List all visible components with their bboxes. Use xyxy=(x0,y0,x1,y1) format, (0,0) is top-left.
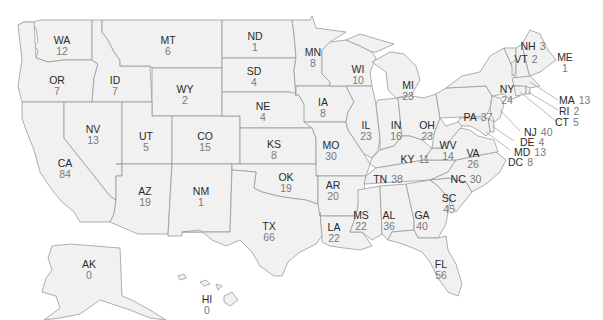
label-ar: AR20 xyxy=(326,180,341,202)
label-vt: VT2 xyxy=(514,54,537,65)
state-ak[interactable] xyxy=(42,244,166,320)
leader-ct xyxy=(520,92,556,121)
label-or: OR7 xyxy=(49,75,65,97)
label-ny: NY24 xyxy=(500,84,515,106)
label-tn: TN38 xyxy=(373,174,403,185)
label-il: IL23 xyxy=(360,120,372,142)
label-wi: WI10 xyxy=(352,64,365,86)
label-tx: TX66 xyxy=(262,221,275,243)
label-co: CO15 xyxy=(197,131,213,153)
label-nd: ND1 xyxy=(247,31,262,53)
label-in: IN16 xyxy=(390,120,402,142)
label-ne: NE4 xyxy=(256,101,271,123)
label-pa: PA37 xyxy=(464,112,493,123)
state-ct[interactable] xyxy=(514,86,526,96)
label-al: AL36 xyxy=(383,210,396,232)
label-ok: OK19 xyxy=(278,172,293,194)
label-oh: OH23 xyxy=(419,120,435,142)
label-wv: WV14 xyxy=(440,140,457,162)
label-ct: CT5 xyxy=(555,117,579,128)
label-mt: MT6 xyxy=(160,35,175,57)
label-id: ID7 xyxy=(110,75,121,97)
label-nh: NH3 xyxy=(520,41,545,52)
label-ms: MS22 xyxy=(353,210,369,232)
leader-nj xyxy=(500,110,520,131)
label-me: ME1 xyxy=(557,52,573,74)
label-nc: NC30 xyxy=(451,174,482,185)
label-ut: UT5 xyxy=(139,131,153,153)
label-mn: MN8 xyxy=(305,47,321,69)
label-ia: IA8 xyxy=(318,97,328,119)
label-ky: KY11 xyxy=(401,154,430,165)
label-sd: SD4 xyxy=(247,66,262,88)
label-az: AZ19 xyxy=(138,186,151,208)
label-ks: KS8 xyxy=(267,139,281,161)
label-wa: WA12 xyxy=(54,35,71,57)
label-mo: MO30 xyxy=(323,140,340,162)
label-ca: CA84 xyxy=(58,158,73,180)
label-sc: SC45 xyxy=(442,193,457,215)
label-ak: AK0 xyxy=(82,259,96,281)
label-wy: WY2 xyxy=(177,84,194,106)
leader-ri xyxy=(528,92,558,110)
leader-ma xyxy=(530,82,558,100)
label-la: LA22 xyxy=(328,222,341,244)
label-nv: NV13 xyxy=(86,124,101,146)
label-va: VA26 xyxy=(466,148,479,170)
label-hi: HI0 xyxy=(202,294,213,316)
state-fl[interactable] xyxy=(388,230,462,296)
label-ga: GA40 xyxy=(414,210,429,232)
label-mi: MI23 xyxy=(402,80,414,102)
label-nm: NM1 xyxy=(193,186,209,208)
label-dc: DC8 xyxy=(508,157,533,168)
label-fl: FL56 xyxy=(435,259,447,281)
